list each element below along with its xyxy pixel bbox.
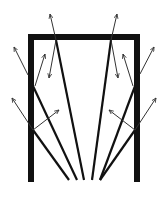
ray-1	[33, 130, 69, 180]
frame-walls	[31, 37, 137, 182]
arrow-r1-out-icon	[140, 47, 154, 74]
arrow-t1-in-icon	[49, 40, 56, 78]
arrow-r2-in-icon	[109, 110, 135, 130]
ray-5	[100, 86, 135, 180]
incident-rays	[33, 40, 135, 180]
ray-2	[33, 86, 77, 180]
ray-reflection-diagram	[0, 0, 168, 197]
ray-6	[100, 130, 135, 180]
arrow-r1-in-icon	[123, 54, 133, 86]
arrow-l2-in-icon	[35, 54, 45, 86]
arrow-t2-in-icon	[111, 40, 118, 78]
ray-3	[56, 40, 84, 180]
arrow-l2-out-icon	[14, 47, 28, 75]
